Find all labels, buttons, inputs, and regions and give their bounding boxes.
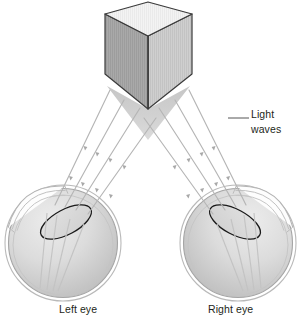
label-left-eye: Left eye <box>59 303 97 315</box>
label-right-eye: Right eye <box>208 303 253 315</box>
figure-root: Left eye Right eye Light waves <box>0 0 301 326</box>
left-eye-group <box>0 90 156 301</box>
label-light-waves: Light waves <box>251 107 299 137</box>
eye-light-waves-diagram <box>0 0 301 326</box>
